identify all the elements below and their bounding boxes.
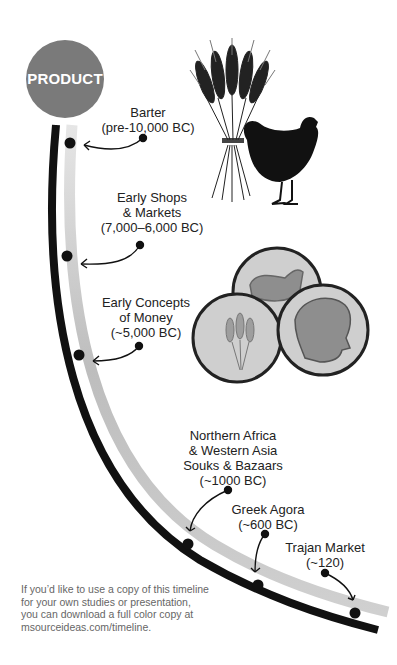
- event-date: (pre-10,000 BC): [98, 120, 198, 135]
- event-souks: Northern Africa & Western Asia Souks & B…: [178, 428, 288, 488]
- event-trajan: Trajan Market (~120): [280, 540, 370, 570]
- timeline-infographic: PRODUCT Barter (pre-10,000 BC) Early Sho…: [0, 0, 397, 665]
- footnote-line: If you’d like to use a copy of this time…: [21, 583, 209, 596]
- timeline-dot-agora: [253, 580, 264, 591]
- footnote: If you’d like to use a copy of this time…: [21, 583, 209, 633]
- wheat-sheaf-icon: [190, 38, 275, 202]
- timeline-dot-souks: [183, 539, 194, 550]
- event-name: Trajan Market: [280, 540, 370, 555]
- event-name: Souks & Bazaars: [178, 458, 288, 473]
- event-early-shops: Early Shops & Markets (7,000–6,000 BC): [92, 190, 212, 235]
- event-barter: Barter (pre-10,000 BC): [98, 105, 198, 135]
- event-date: (7,000–6,000 BC): [92, 220, 212, 235]
- timeline-dot-trajan: [350, 608, 361, 619]
- event-date: (~120): [280, 555, 370, 570]
- chicken-icon: [244, 117, 318, 204]
- event-name: & Markets: [92, 205, 212, 220]
- event-money: Early Concepts of Money (~5,000 BC): [96, 295, 196, 340]
- product-node-label: PRODUCT: [22, 70, 108, 87]
- footnote-line: you can download a full color copy at: [21, 608, 209, 621]
- timeline-dot-money: [74, 350, 85, 361]
- event-name: Early Shops: [92, 190, 212, 205]
- event-name: Greek Agora: [228, 502, 308, 517]
- event-name: & Western Asia: [178, 443, 288, 458]
- event-date: (~600 BC): [228, 517, 308, 532]
- timeline-dot-early-shops: [62, 251, 73, 262]
- event-date: (~5,000 BC): [96, 325, 196, 340]
- event-name: Early Concepts: [96, 295, 196, 310]
- event-name: Northern Africa: [178, 428, 288, 443]
- coins-icon: [193, 248, 368, 382]
- footnote-link[interactable]: msourceideas.com/timeline.: [21, 621, 209, 634]
- event-date: (~1000 BC): [178, 473, 288, 488]
- event-name: of Money: [96, 310, 196, 325]
- footnote-line: for your own studies or presentation,: [21, 596, 209, 609]
- event-agora: Greek Agora (~600 BC): [228, 502, 308, 532]
- event-name: Barter: [98, 105, 198, 120]
- timeline-dot-barter: [65, 138, 76, 149]
